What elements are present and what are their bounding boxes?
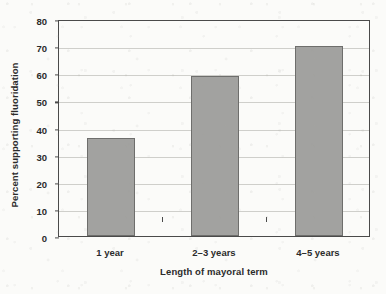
x-axis-tick-mark xyxy=(266,217,267,222)
x-axis-category-label: 1 year xyxy=(55,247,165,258)
x-axis-category-label: 2–3 years xyxy=(159,247,269,258)
plot-area: 01020304050607080 xyxy=(58,20,370,237)
x-axis-tick-mark xyxy=(162,217,163,222)
y-axis-tick-mark xyxy=(55,20,59,21)
bar xyxy=(295,46,343,236)
y-axis-tick-mark xyxy=(55,210,59,211)
y-axis-tick-label: 40 xyxy=(7,124,47,135)
y-axis-tick-mark xyxy=(55,156,59,157)
y-axis-tick-label: 70 xyxy=(7,43,47,54)
y-axis-tick-mark xyxy=(55,183,59,184)
y-axis-tick-mark xyxy=(55,129,59,130)
y-axis-tick-mark xyxy=(55,48,59,49)
y-axis-tick-label: 60 xyxy=(7,70,47,81)
y-axis-tick-label: 30 xyxy=(7,151,47,162)
y-axis-tick-mark xyxy=(55,237,59,238)
y-axis-tick-mark xyxy=(55,102,59,103)
bar xyxy=(87,138,135,236)
y-axis-tick-label: 10 xyxy=(7,205,47,216)
x-axis-category-label: 4–5 years xyxy=(263,247,373,258)
y-axis-tick-label: 0 xyxy=(7,233,47,244)
y-axis-tick-label: 50 xyxy=(7,97,47,108)
y-axis-tick-label: 20 xyxy=(7,178,47,189)
bar-chart-figure: Percent supporting fluoridation 01020304… xyxy=(0,0,386,294)
bar xyxy=(191,76,239,236)
y-axis-tick-mark xyxy=(55,75,59,76)
y-axis-tick-label: 80 xyxy=(7,16,47,27)
x-axis-title: Length of mayoral term xyxy=(58,266,370,277)
